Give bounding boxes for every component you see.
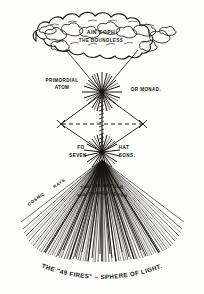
cosmogenesis-diagram: AIN SOPH THE BOUNDLESS — [0, 0, 204, 294]
label-hat: HAT — [119, 145, 130, 150]
diagram-canvas: AIN SOPH THE BOUNDLESS — [0, 0, 204, 294]
label-seven: SEVEN — [69, 153, 87, 158]
label-primordial: PRIMORDIAL — [45, 78, 78, 83]
label-the-boundless: THE BOUNDLESS — [79, 38, 124, 43]
label-ain-soph: AIN SOPH — [87, 29, 115, 35]
label-or-monad: OR MONAD. — [131, 87, 161, 92]
label-fo: FO — [77, 145, 84, 150]
label-sons: SONS. — [119, 153, 135, 158]
monad-core — [101, 91, 104, 94]
label-atom: ATOM — [55, 85, 70, 90]
fohat-core — [100, 150, 104, 154]
